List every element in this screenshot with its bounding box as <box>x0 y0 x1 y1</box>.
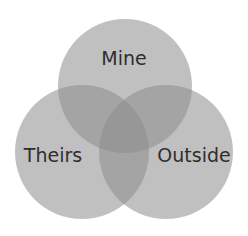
label-outside: Outside <box>157 144 230 166</box>
label-mine: Mine <box>101 47 146 69</box>
venn-diagram: Mine Theirs Outside <box>0 0 248 236</box>
label-theirs: Theirs <box>23 144 82 166</box>
